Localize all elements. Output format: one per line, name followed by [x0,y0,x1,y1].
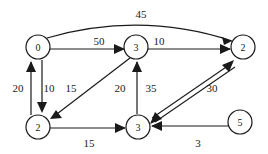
edge-weight-50: 50 [94,35,106,47]
edge-weight-35: 35 [146,82,158,94]
node-3-bottom-label: 3 [136,122,141,133]
graph-figure: 45 50 10 20 10 15 20 35 30 15 3 0 3 2 2 [0,0,268,154]
edge-weight-30: 30 [207,82,219,94]
edge-35 [132,61,142,114]
edge-3 [151,121,228,131]
edge-30-arrowhead-upper [222,60,234,72]
edge-weight-3: 3 [195,137,201,149]
edge-50-arrowhead [114,44,125,54]
edge-10-top-arrowhead [220,44,231,54]
edge-20-up [26,61,36,115]
node-5-label: 5 [238,117,243,128]
node-2-bottom-left-label: 2 [36,122,41,133]
graph-canvas: 45 50 10 20 10 15 20 35 30 15 3 0 3 2 2 [0,0,268,154]
edge-weight-15-bottom: 15 [84,137,96,149]
node-0-label: 0 [36,42,41,53]
node-2-bottom-left[interactable]: 2 [26,115,50,139]
node-2-right-label: 2 [241,42,246,53]
edge-30-path-a [152,63,232,118]
edge-weight-45: 45 [136,8,148,20]
edge-20-up-arrowhead [26,61,36,72]
node-3-bottom[interactable]: 3 [126,115,150,139]
edge-weight-20-up: 20 [13,82,25,94]
edge-30-path-b [155,67,235,122]
edge-10-down-arrowhead [37,102,47,113]
node-2-right[interactable]: 2 [231,35,255,59]
node-5[interactable]: 5 [228,110,252,134]
edge-50 [50,44,125,54]
edge-15-bottom [50,123,126,133]
edge-15-bottom-arrowhead [115,123,126,133]
node-3-top[interactable]: 3 [124,35,148,59]
node-0[interactable]: 0 [26,35,50,59]
node-3-top-label: 3 [134,42,139,53]
edge-weight-20-diagonal: 20 [115,82,127,94]
edge-weight-10-top: 10 [154,35,166,47]
edge-35-arrowhead [132,61,142,72]
edge-45-arrowhead [222,37,232,45]
edge-30 [150,60,235,124]
edge-weight-10-down: 10 [44,82,56,94]
edge-weight-15-diagonal: 15 [66,82,78,94]
